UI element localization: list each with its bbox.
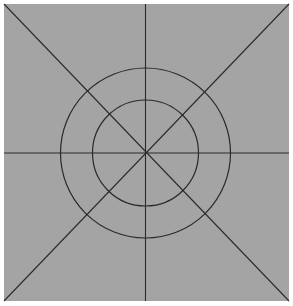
- diagram-canvas: [0, 0, 293, 306]
- concentric-circles-diagram: [0, 0, 293, 306]
